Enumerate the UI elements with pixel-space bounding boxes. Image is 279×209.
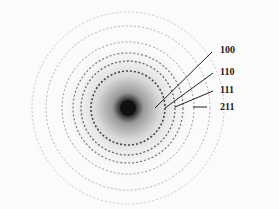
label-110: 110	[220, 67, 234, 77]
diffraction-figure: 100 110 111 211	[0, 0, 279, 209]
diffraction-pattern	[0, 0, 279, 209]
label-100: 100	[220, 45, 235, 55]
label-111: 111	[220, 85, 234, 95]
label-211: 211	[220, 102, 234, 112]
